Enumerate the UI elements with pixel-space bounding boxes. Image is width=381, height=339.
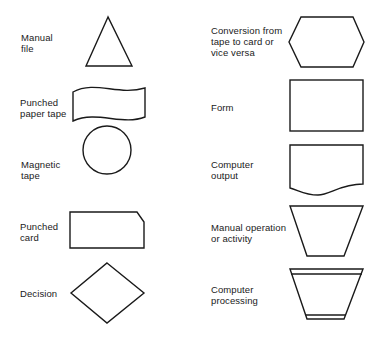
manual-operation-icon — [290, 206, 363, 256]
form-icon — [290, 80, 363, 131]
triangle-icon — [86, 17, 132, 66]
punched-card-icon — [70, 212, 144, 248]
symbols-canvas — [0, 0, 381, 339]
magnetic-tape-icon — [83, 126, 131, 174]
computer-output-icon — [290, 145, 363, 195]
hexagon-icon — [289, 17, 364, 67]
punched-tape-icon — [73, 87, 145, 121]
decision-diamond-icon — [71, 263, 144, 323]
computer-processing-icon — [290, 269, 363, 319]
